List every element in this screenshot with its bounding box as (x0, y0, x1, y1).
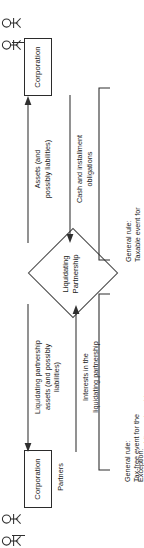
diagram-canvas: Liquidating Partnership Corporation (0, 0, 144, 548)
corporation-box-right: Corporation (24, 38, 52, 96)
note-left-exception: Exception: Special rules permit gain or … (126, 282, 144, 482)
partners-label: Partners (56, 449, 66, 505)
diagram-rotation-wrapper: Liquidating Partnership Corporation (0, 0, 144, 548)
bracket-left (96, 292, 112, 472)
stick-figure-group-left (0, 500, 22, 548)
connector-corporation-right-to-actors (12, 42, 25, 43)
connector-corporation-left-to-actors (12, 535, 25, 536)
stick-figure-group-right (0, 4, 22, 52)
corporation-box-left: Corporation (24, 450, 52, 508)
corporation-box-left-label: Corporation (34, 458, 42, 499)
stick-figure-icon (2, 536, 20, 546)
corporation-box-right-label: Corporation (34, 46, 42, 87)
arrow-liquidating-assets-label: Liquidating partnership assets (and poss… (33, 310, 62, 444)
note-right-general-rule: General rule: Taxable event for the sell… (114, 72, 144, 262)
arrow-assets-label: Assets (and possibly liabilities) (33, 108, 52, 230)
note-right-body: Taxable event for the selling partnershi… (133, 192, 144, 262)
stick-figure-icon (2, 514, 20, 524)
stick-figure-icon (2, 18, 20, 28)
arrow-cash-label: Cash and installment obligations (75, 108, 94, 230)
note-left-exception-prefix: Exception: (136, 448, 144, 482)
diamond-label-line-1: Liquidating (61, 256, 70, 293)
note-right-prefix: General rule: (124, 220, 133, 262)
diamond-label-line-2: Partnership (71, 255, 80, 294)
bracket-right (96, 86, 112, 262)
